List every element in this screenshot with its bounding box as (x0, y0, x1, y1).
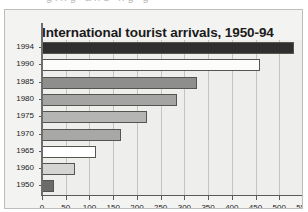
y-axis-tick-label: 1980 (16, 94, 34, 103)
chart-title: International tourist arrivals, 1950-94 (42, 25, 274, 40)
y-axis-tick-label: 1975 (16, 111, 34, 120)
x-axis-tick-label: 450 (249, 203, 262, 209)
bar (42, 180, 54, 192)
x-axis-tick-label: 100 (83, 203, 96, 209)
bar (42, 42, 294, 54)
bar (42, 146, 96, 158)
clipped-header-text: ging and ng g (0, 0, 308, 8)
x-axis-line (41, 195, 303, 196)
x-axis-tick-label: 200 (130, 203, 143, 209)
bar-row: 1950 (42, 178, 303, 195)
x-axis-tick-label: 150 (106, 203, 119, 209)
bar (42, 111, 147, 123)
x-axis-tick (232, 196, 233, 200)
bar (42, 163, 75, 175)
y-axis-line (41, 23, 43, 196)
bar-row: 1970 (42, 127, 303, 144)
x-axis-tick (113, 196, 114, 200)
x-axis-tick (137, 196, 138, 200)
x-axis-tick-label: 550 (296, 203, 303, 209)
x-axis-tick (184, 196, 185, 200)
bar (42, 59, 260, 71)
x-axis-tick (208, 196, 209, 200)
clipped-header-text-ghost: ging and ng g (46, 0, 152, 3)
x-axis-tick-label: 350 (201, 203, 214, 209)
plot-area: 199419901985198019751970196519601950 050… (38, 40, 303, 196)
x-axis-tick (66, 196, 67, 200)
bar-row: 1965 (42, 144, 303, 161)
x-axis-tick (89, 196, 90, 200)
bar (42, 94, 177, 106)
chart-figure: International tourist arrivals, 1950-94 … (4, 9, 303, 209)
bar-row: 1990 (42, 57, 303, 74)
x-axis-tick-label: 0 (40, 203, 44, 209)
bar-row: 1994 (42, 40, 303, 57)
bar (42, 129, 121, 141)
y-axis-tick-label: 1960 (16, 163, 34, 172)
bar-row: 1980 (42, 92, 303, 109)
x-axis-tick (161, 196, 162, 200)
x-axis-tick (279, 196, 280, 200)
x-axis-tick-label: 400 (225, 203, 238, 209)
x-axis-tick-label: 300 (178, 203, 191, 209)
bar (42, 77, 197, 89)
x-axis-tick-label: 250 (154, 203, 167, 209)
y-axis-tick-label: 1985 (16, 77, 34, 86)
y-axis-tick-label: 1950 (16, 180, 34, 189)
y-axis-tick-label: 1970 (16, 129, 34, 138)
bar-row: 1975 (42, 109, 303, 126)
x-axis-tick (256, 196, 257, 200)
y-axis-tick-label: 1965 (16, 146, 34, 155)
y-axis-tick-label: 1990 (16, 59, 34, 68)
x-axis-tick (42, 196, 43, 200)
x-axis-tick-label: 50 (61, 203, 70, 209)
bar-row: 1985 (42, 75, 303, 92)
x-axis-tick-label: 500 (273, 203, 286, 209)
y-axis-tick-label: 1994 (16, 42, 34, 51)
bar-row: 1960 (42, 161, 303, 178)
